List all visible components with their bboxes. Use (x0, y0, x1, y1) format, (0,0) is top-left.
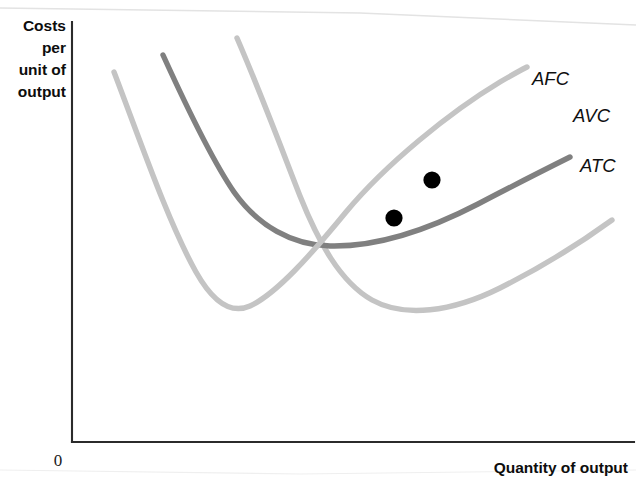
intersection-dot-upper (423, 171, 440, 188)
y-axis-title-line-4: output (18, 83, 66, 100)
cost-curves-figure: AFC AVC ATC Costs per unit of output Qua… (0, 0, 636, 497)
x-axis-title: Quantity of output (494, 459, 628, 476)
curve-label-avc: AVC (572, 105, 611, 126)
y-axis-title-line-3: unit of (19, 61, 67, 78)
y-axis-title-line-2: per (42, 39, 66, 56)
intersection-dot-lower (385, 209, 402, 226)
curve-label-atc: ATC (579, 155, 616, 176)
origin-label: 0 (54, 451, 63, 470)
y-axis-title-line-1: Costs (23, 17, 66, 34)
curve-label-afc: AFC (531, 68, 570, 89)
